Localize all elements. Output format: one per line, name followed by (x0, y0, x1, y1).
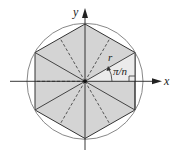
radius-label: r (108, 51, 113, 63)
center-point (83, 80, 87, 84)
y-axis-arrow-icon (82, 8, 88, 18)
hexagon-diagram: x y r π/n (0, 0, 177, 157)
angle-label: π/n (113, 65, 128, 77)
x-axis-arrow-icon (152, 78, 162, 84)
x-axis-label: x (163, 74, 170, 88)
y-axis-label: y (72, 5, 79, 19)
